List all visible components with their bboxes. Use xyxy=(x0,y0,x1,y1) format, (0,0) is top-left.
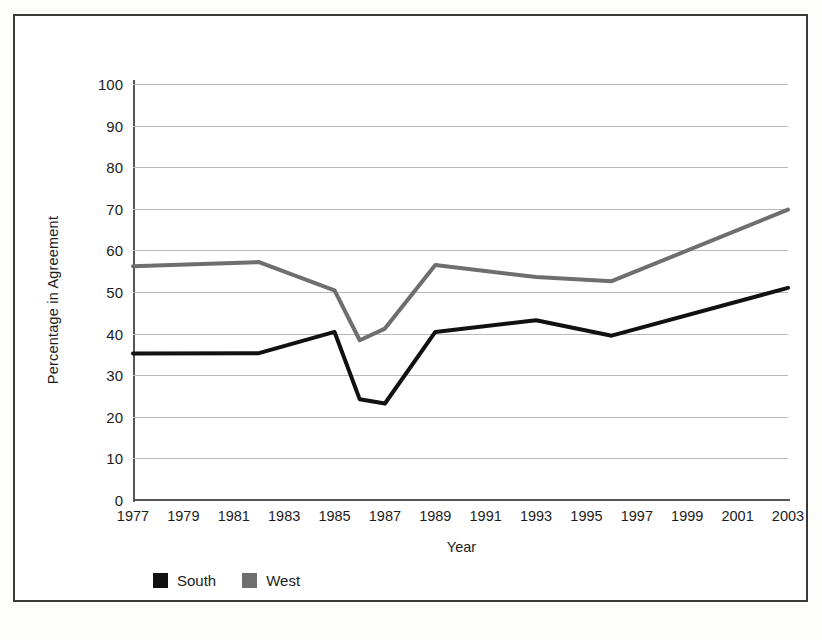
y-axis-tick-label: 20 xyxy=(106,408,123,425)
y-axis-tick-label: 0 xyxy=(115,492,123,509)
x-axis-tick-label: 1993 xyxy=(520,508,552,524)
legend-item-south[interactable]: South xyxy=(153,572,216,589)
x-axis-tick-label: 2003 xyxy=(772,508,804,524)
series-line-south xyxy=(133,288,788,404)
x-axis-tick-label: 1991 xyxy=(470,508,502,524)
legend-item-west[interactable]: West xyxy=(242,572,300,589)
figure-frame: Percentage in Agreement 0102030405060708… xyxy=(13,14,808,602)
y-axis-tick-label: 50 xyxy=(106,284,123,301)
y-axis-title: Percentage in Agreement xyxy=(45,90,65,510)
y-axis-tick-label: 90 xyxy=(106,117,123,134)
x-axis-ticks: 1977197919811983198519871989199119931995… xyxy=(133,508,790,530)
legend-swatch-icon xyxy=(242,573,257,588)
chart-figure: Percentage in Agreement 0102030405060708… xyxy=(0,0,822,640)
x-axis-tick-label: 1983 xyxy=(268,508,300,524)
series-line-west xyxy=(133,210,788,341)
y-axis-tick-label: 40 xyxy=(106,325,123,342)
x-axis-tick-label: 1979 xyxy=(167,508,199,524)
legend-swatch-icon xyxy=(153,573,168,588)
x-axis-tick-label: 1997 xyxy=(621,508,653,524)
y-axis-tick-label: 10 xyxy=(106,450,123,467)
series-lines xyxy=(133,84,788,500)
x-axis-tick-label: 1987 xyxy=(369,508,401,524)
x-axis-title: Year xyxy=(133,539,790,555)
y-axis-tick-label: 80 xyxy=(106,159,123,176)
x-axis-tick-label: 1995 xyxy=(570,508,602,524)
x-axis-tick-label: 1981 xyxy=(218,508,250,524)
plot-area: 0102030405060708090100 xyxy=(133,84,788,500)
legend-label: South xyxy=(177,572,216,589)
x-axis-tick-label: 1977 xyxy=(117,508,149,524)
x-axis-tick-label: 1985 xyxy=(318,508,350,524)
x-axis-tick-label: 2001 xyxy=(721,508,753,524)
x-axis-tick-label: 1989 xyxy=(419,508,451,524)
y-axis-tick-label: 70 xyxy=(106,200,123,217)
y-axis-tick-label: 100 xyxy=(98,76,123,93)
y-axis-tick-label: 60 xyxy=(106,242,123,259)
chart-legend: SouthWest xyxy=(153,572,300,589)
y-axis-tick-label: 30 xyxy=(106,367,123,384)
legend-label: West xyxy=(266,572,300,589)
x-axis-tick-label: 1999 xyxy=(671,508,703,524)
